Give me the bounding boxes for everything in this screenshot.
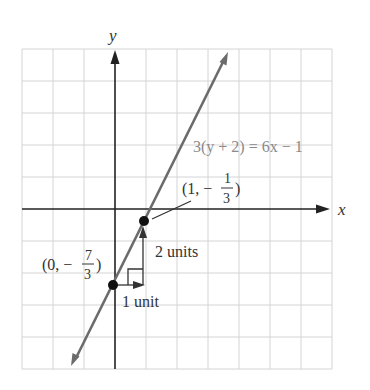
x-axis [22, 205, 330, 214]
x-axis-label: x [337, 200, 346, 219]
point-a [108, 280, 118, 290]
svg-text:3: 3 [84, 267, 91, 282]
point-a-label: (0, − 7 3 ) [42, 248, 101, 282]
svg-text:1: 1 [224, 171, 231, 186]
leader-line [152, 201, 191, 219]
svg-text:(0, −: (0, − [42, 256, 72, 274]
y-axis-label: y [107, 26, 117, 45]
slope-triangle [113, 236, 143, 285]
svg-text:): ) [235, 180, 240, 198]
rise-label: 2 units [155, 243, 198, 260]
svg-text:3: 3 [223, 191, 230, 206]
arrow-head-up-icon [220, 52, 229, 66]
equation-label: 3(y + 2) = 6x − 1 [193, 138, 303, 156]
svg-text:): ) [96, 256, 101, 274]
svg-text:7: 7 [85, 248, 92, 263]
point-b [139, 216, 149, 226]
run-label: 1 unit [122, 293, 159, 310]
graph-canvas: x y 3(y + 2) = 6x − 1 (1, − 1 3 ) (0, − … [0, 0, 370, 390]
svg-text:(1, −: (1, − [182, 180, 212, 198]
